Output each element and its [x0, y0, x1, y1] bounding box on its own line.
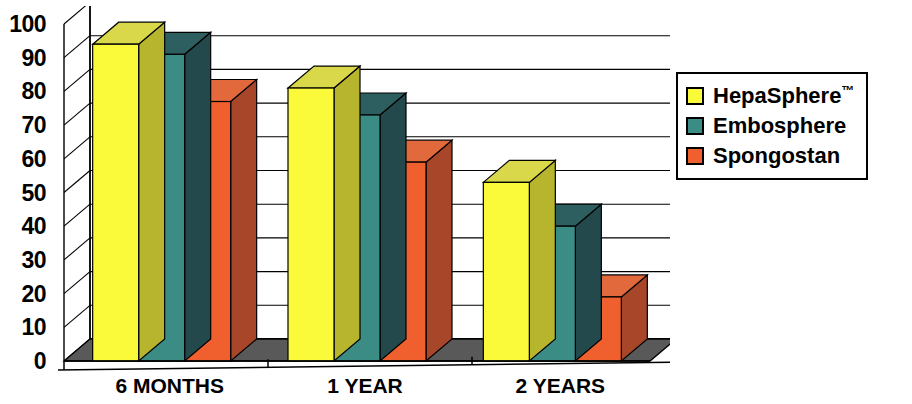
y-tick-label-30: 30: [0, 248, 46, 271]
bar-chart: 0102030405060708090100 6 MONTHS1 YEAR2 Y…: [0, 0, 912, 404]
legend-item-0: HepaSphere™: [686, 81, 854, 111]
legend-swatch-embosphere: [686, 117, 704, 135]
y-tick-label-90: 90: [0, 46, 46, 69]
legend-swatch-hepasphere: [686, 87, 704, 105]
legend-label-embosphere: Embosphere: [713, 115, 846, 137]
legend-label-hepasphere: HepaSphere™: [713, 84, 854, 107]
legend-label-hepasphere-text: HepaSphere: [713, 84, 841, 109]
plot-svg: [50, 6, 670, 372]
bar-6-months-hepasphere: [93, 22, 165, 361]
y-tick-label-50: 50: [0, 181, 46, 204]
y-tick-label-60: 60: [0, 147, 46, 170]
y-tick-label-20: 20: [0, 282, 46, 305]
y-tick-label-80: 80: [0, 80, 46, 103]
trademark-icon: ™: [841, 83, 854, 98]
y-tick-label-10: 10: [0, 316, 46, 339]
legend-item-1: Embosphere: [686, 111, 854, 141]
x-tick-label-2-years: 2 YEARS: [516, 374, 606, 398]
y-tick-label-40: 40: [0, 215, 46, 238]
y-axis-tick-labels: 0102030405060708090100: [0, 0, 46, 404]
chart-legend: HepaSphere™ Embosphere Spongostan: [676, 72, 868, 180]
x-tick-label-1-year: 1 YEAR: [327, 374, 402, 398]
bar-2-years-hepasphere: [483, 160, 555, 361]
legend-item-2: Spongostan: [686, 141, 854, 171]
legend-swatch-spongostan: [686, 147, 704, 165]
plot-area: [50, 6, 670, 372]
bar-1-year-hepasphere: [288, 66, 360, 361]
legend-label-spongostan: Spongostan: [713, 145, 840, 167]
x-axis-category-labels: 6 MONTHS1 YEAR2 YEARS: [50, 374, 670, 404]
x-tick-label-6-months: 6 MONTHS: [115, 374, 224, 398]
y-tick-label-100: 100: [0, 13, 46, 36]
y-tick-label-70: 70: [0, 114, 46, 137]
y-tick-label-0: 0: [0, 350, 46, 373]
